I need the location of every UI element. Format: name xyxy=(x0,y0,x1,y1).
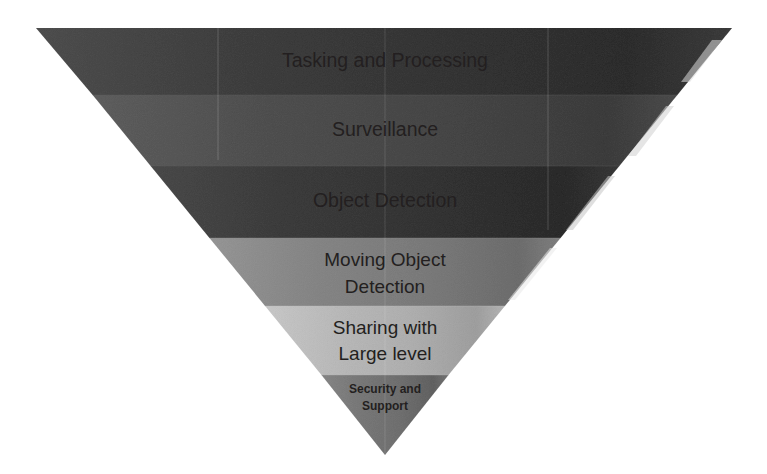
funnel-band-1-label: Tasking and Processing xyxy=(282,49,488,71)
funnel-band-2-label: Surveillance xyxy=(332,118,438,140)
funnel-band-5-label-line1: Sharing with xyxy=(333,317,438,338)
funnel-band-6-label-line2: Support xyxy=(362,399,408,413)
funnel-band-5-label-line2: Large level xyxy=(339,343,432,364)
funnel-band-3-label: Object Detection xyxy=(313,189,457,211)
funnel-band-4-label-line1: Moving Object xyxy=(324,249,446,270)
funnel-band-4-label-line2: Detection xyxy=(345,276,425,297)
funnel-band-6-label-line1: Security and xyxy=(349,382,421,396)
funnel-chart-svg: Tasking and Processing Surveillance Obje… xyxy=(0,0,767,474)
funnel-diagram: Tasking and Processing Surveillance Obje… xyxy=(0,0,767,474)
